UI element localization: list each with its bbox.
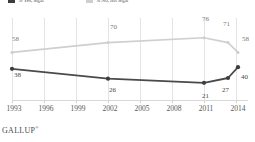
x-axis-label: 2002: [103, 104, 118, 113]
series-point-not-legal: [203, 36, 206, 39]
data-label-not-legal: 70: [110, 24, 117, 31]
series-point-yes-legal: [236, 65, 240, 69]
x-axis-line: [12, 100, 248, 101]
chart-legend: % Yes, legal % No, not legal: [0, 0, 255, 5]
gridline: [236, 18, 237, 100]
x-axis-label: 1999: [71, 104, 86, 113]
data-label-not-legal: 58: [12, 36, 19, 43]
x-axis-labels: 1993 1996 1999 2002 2005 2008 2011 2014: [0, 104, 255, 116]
series-point-not-legal: [227, 41, 230, 44]
series-point-not-legal: [237, 51, 240, 54]
legend-item-not-legal[interactable]: % No, not legal: [86, 0, 129, 3]
series-point-not-legal: [11, 51, 14, 54]
legend-swatch-light-icon: [86, 0, 93, 3]
x-axis-label: 2014: [231, 104, 246, 113]
series-point-yes-legal: [202, 81, 206, 85]
data-label-not-legal: 58: [242, 36, 249, 43]
series-lines: [12, 18, 236, 100]
legend-item-yes-legal[interactable]: % Yes, legal: [8, 0, 44, 3]
series-point-yes-legal: [106, 77, 110, 81]
x-axis-label: 1993: [7, 104, 22, 113]
x-axis-label: 2011: [199, 104, 214, 113]
series-point-yes-legal: [226, 76, 230, 80]
data-label-yes-legal: 38: [14, 72, 21, 79]
gallup-attribution: GALLUP®: [2, 125, 39, 135]
data-label-yes-legal: 27: [222, 87, 229, 94]
gallup-line-chart: % Yes, legal % No, not legal 58: [0, 0, 255, 142]
data-label-yes-legal: 40: [241, 74, 248, 81]
gallup-wordmark: GALLUP: [2, 126, 35, 135]
legend-label-not-legal: % No, not legal: [96, 0, 129, 3]
data-label-yes-legal: 26: [109, 87, 116, 94]
x-axis-label: 2005: [135, 104, 150, 113]
trademark-icon: ®: [35, 125, 39, 130]
data-label-not-legal: 76: [202, 16, 209, 23]
legend-label-yes-legal: % Yes, legal: [18, 0, 44, 3]
series-line-not-legal: [12, 38, 238, 53]
data-label-not-legal: 71: [223, 21, 230, 28]
x-axis-label: 1996: [39, 104, 54, 113]
x-axis-label: 2008: [167, 104, 182, 113]
legend-swatch-dark-icon: [8, 0, 15, 3]
data-label-yes-legal: 21: [202, 93, 209, 100]
series-line-yes-legal: [12, 67, 238, 83]
series-point-not-legal: [107, 41, 110, 44]
